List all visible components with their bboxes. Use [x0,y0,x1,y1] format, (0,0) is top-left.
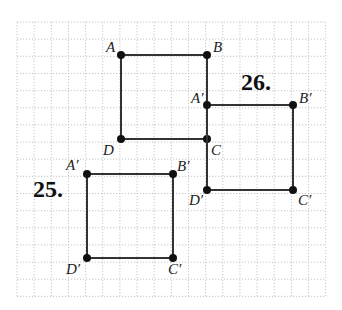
vertex-label: B [213,39,222,55]
translation-diagram: ABCDA′B′C′D′26.A′B′C′D′25. [0,0,342,310]
vertex-label: A′ [65,157,79,173]
figure-image-25: A′B′C′D′25. [33,157,190,277]
vertex-label: B′ [177,158,190,174]
vertex-point [83,170,91,178]
figures: ABCDA′B′C′D′26.A′B′C′D′25. [33,39,312,277]
vertex-label: C [211,142,222,158]
vertex-label: B′ [299,90,312,106]
vertex-point [117,135,125,143]
vertex-label: D [102,142,114,158]
vertex-label: A′ [190,90,204,106]
vertex-point [169,170,177,178]
vertex-label: A [105,39,116,55]
vertex-point [289,101,297,109]
vertex-point [203,101,211,109]
vertex-point [83,254,91,262]
vertex-label: D′ [188,192,204,208]
figure-original: ABCD [102,39,222,158]
vertex-label: C′ [168,261,182,277]
vertex-point [117,51,125,59]
exercise-number: 25. [33,176,63,202]
vertex-point [203,51,211,59]
vertex-label: C′ [298,192,312,208]
vertex-label: D′ [65,261,81,277]
vertex-point [289,186,297,194]
square-outline [87,174,173,258]
vertex-point [203,186,211,194]
exercise-number: 26. [241,69,271,95]
